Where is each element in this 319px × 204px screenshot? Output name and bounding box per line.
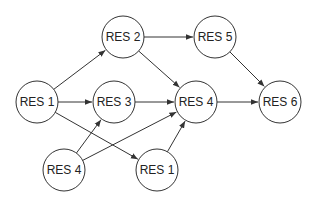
- node-label: RES 3: [97, 95, 132, 109]
- node-label: RES 1: [20, 95, 55, 109]
- graph-node: RES 3: [93, 81, 135, 123]
- node-label: RES 1: [140, 163, 175, 177]
- graph-node: RES 2: [102, 16, 144, 58]
- node-label: RES 4: [179, 95, 214, 109]
- resource-dependency-graph: RES 1RES 2RES 3RES 4RES 5RES 6RES 4RES 1: [0, 0, 319, 204]
- graph-node: RES 4: [43, 149, 85, 191]
- node-label: RES 4: [47, 163, 82, 177]
- node-label: RES 6: [263, 95, 298, 109]
- graph-node: RES 6: [259, 81, 301, 123]
- node-label: RES 2: [106, 30, 141, 44]
- edge-arrow: [167, 121, 185, 152]
- nodes-layer: RES 1RES 2RES 3RES 4RES 5RES 6RES 4RES 1: [16, 16, 301, 191]
- edge-arrow: [54, 50, 106, 89]
- graph-node: RES 5: [194, 16, 236, 58]
- graph-node: RES 4: [175, 81, 217, 123]
- edges-layer: [54, 37, 265, 160]
- graph-node: RES 1: [16, 81, 58, 123]
- graph-node: RES 1: [136, 149, 178, 191]
- edge-arrow: [139, 51, 180, 87]
- edge-arrow: [230, 52, 265, 87]
- node-label: RES 5: [198, 30, 233, 44]
